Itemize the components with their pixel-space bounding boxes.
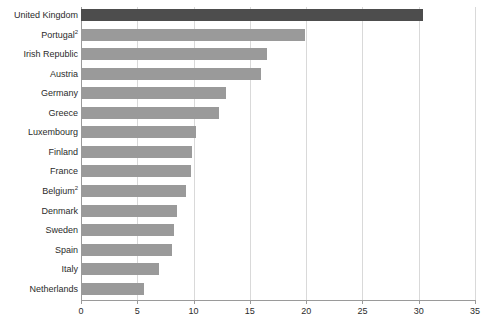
x-tick-mark [250, 300, 251, 304]
category-label: Netherlands [2, 283, 78, 295]
bar [81, 185, 186, 197]
x-tick-mark [81, 300, 82, 304]
gridline [362, 7, 363, 300]
x-tick-label: 5 [135, 306, 140, 317]
category-label: Greece [2, 107, 78, 119]
category-label-text: Irish Republic [23, 49, 78, 59]
x-tick-mark [137, 300, 138, 304]
x-axis-line [81, 300, 475, 301]
category-label: Spain [2, 244, 78, 256]
x-tick-mark [306, 300, 307, 304]
category-label-text: United Kingdom [14, 10, 78, 20]
bar [81, 48, 267, 60]
gridline [475, 7, 476, 300]
category-label: Sweden [2, 224, 78, 236]
category-label-text: Luxembourg [28, 127, 78, 137]
x-tick-label: 35 [470, 306, 480, 317]
category-label-text: Netherlands [29, 284, 78, 294]
category-axis-labels: United KingdomPortugal2Irish RepublicAus… [0, 7, 78, 300]
category-label: Germany [2, 87, 78, 99]
gridline [306, 7, 307, 300]
x-tick-label: 25 [357, 306, 367, 317]
category-label-text: Finland [48, 147, 78, 157]
category-label: Finland [2, 146, 78, 158]
category-label: France [2, 165, 78, 177]
category-label: Denmark [2, 205, 78, 217]
category-label-text: Belgium [42, 186, 75, 196]
bar [81, 263, 159, 275]
category-label-text: Austria [50, 69, 78, 79]
bar [81, 87, 226, 99]
category-label: United Kingdom [2, 9, 78, 21]
category-label: Belgium2 [2, 185, 78, 197]
bar [81, 283, 144, 295]
category-label: Portugal2 [2, 29, 78, 41]
x-tick-mark [194, 300, 195, 304]
bar [81, 126, 196, 138]
bar [81, 165, 191, 177]
gridline [419, 7, 420, 300]
plot-area [81, 7, 475, 300]
bar [81, 29, 305, 41]
bar [81, 9, 423, 21]
bar [81, 205, 177, 217]
category-footnote-marker: 2 [75, 185, 78, 191]
category-label-text: Portugal [41, 30, 75, 40]
x-tick-label: 30 [414, 306, 424, 317]
category-footnote-marker: 2 [75, 29, 78, 35]
category-label-text: Spain [55, 245, 78, 255]
x-tick-mark [362, 300, 363, 304]
category-label-text: Sweden [45, 225, 78, 235]
bar [81, 146, 192, 158]
x-tick-label: 10 [189, 306, 199, 317]
category-label-text: France [50, 166, 78, 176]
category-label: Irish Republic [2, 48, 78, 60]
category-label-text: Greece [48, 108, 78, 118]
category-label-text: Italy [61, 264, 78, 274]
category-label: Italy [2, 263, 78, 275]
x-tick-mark [475, 300, 476, 304]
category-label: Austria [2, 68, 78, 80]
x-tick-label: 20 [301, 306, 311, 317]
x-tick-label: 15 [245, 306, 255, 317]
category-label-text: Denmark [41, 206, 78, 216]
category-label-text: Germany [41, 88, 78, 98]
bar [81, 224, 174, 236]
bar [81, 107, 219, 119]
bar [81, 68, 261, 80]
x-tick-label: 0 [78, 306, 83, 317]
bar-chart: United KingdomPortugal2Irish RepublicAus… [0, 0, 491, 321]
x-tick-mark [419, 300, 420, 304]
bar [81, 244, 172, 256]
category-label: Luxembourg [2, 126, 78, 138]
